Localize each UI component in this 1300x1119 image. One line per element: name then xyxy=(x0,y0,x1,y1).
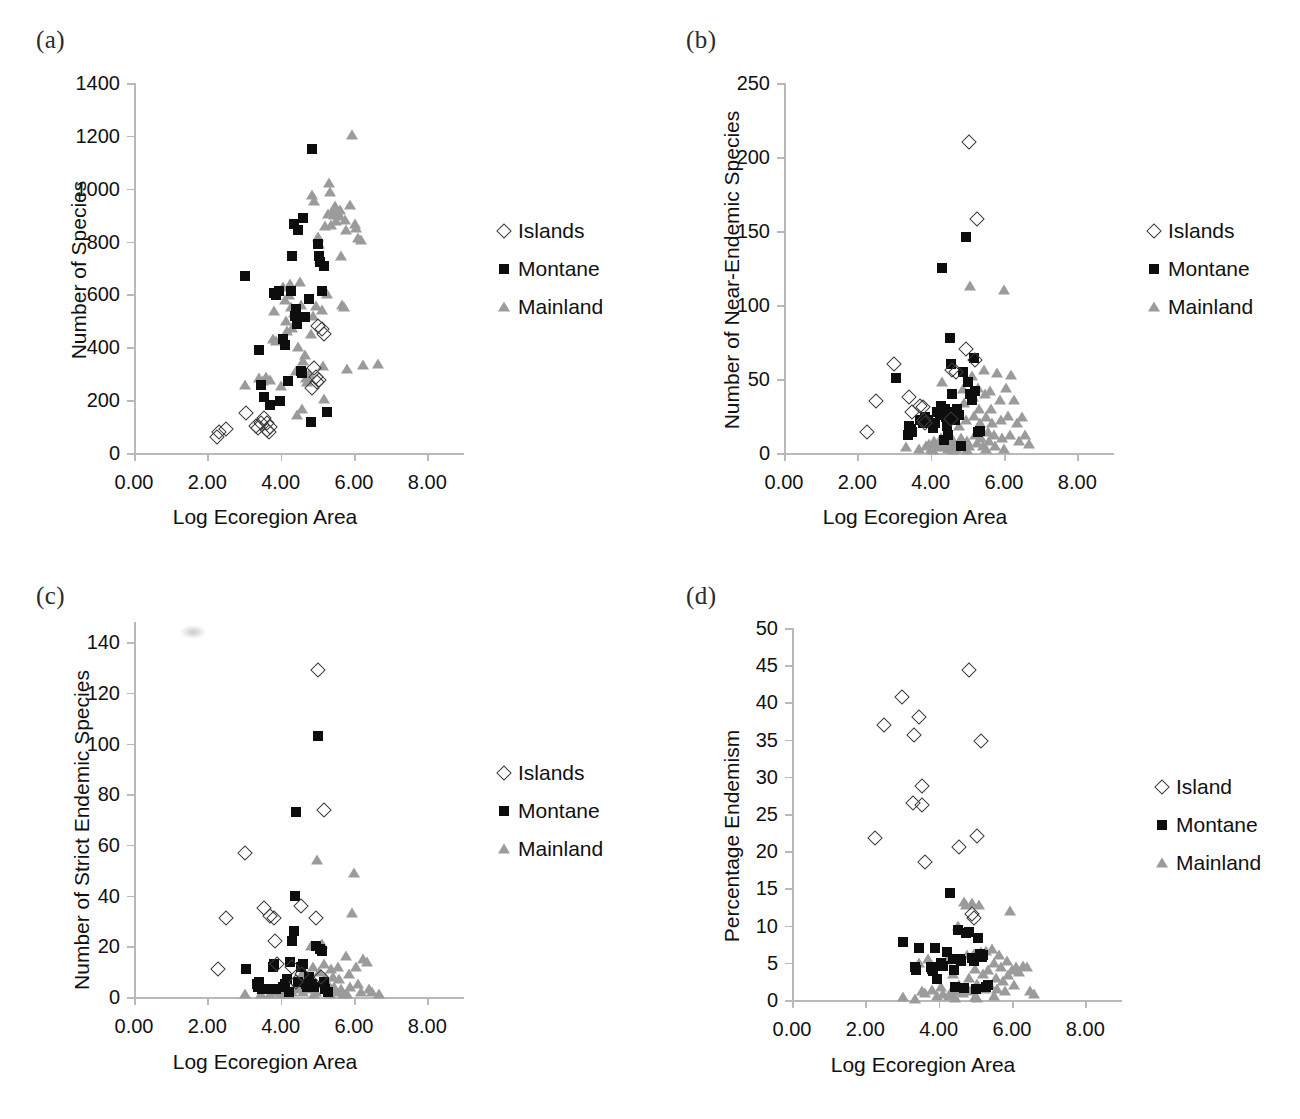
legend-label: Montane xyxy=(518,799,600,823)
y-axis-label-b: Number of Near-Endemic Species xyxy=(720,70,744,470)
y-tick-label: 100 xyxy=(737,294,770,317)
mainland-marker xyxy=(373,989,385,999)
legend-a: IslandsMontaneMainland xyxy=(492,212,603,326)
y-tick-label: 5 xyxy=(767,951,778,974)
x-tick-label: 4.00 xyxy=(919,1018,958,1041)
islands-marker xyxy=(906,727,922,743)
mainland-marker xyxy=(900,442,912,452)
y-tick xyxy=(127,189,134,191)
mainland-marker xyxy=(316,305,328,315)
y-tick xyxy=(127,400,134,402)
legend-item-mainland: Mainland xyxy=(492,830,603,868)
mainland-marker xyxy=(350,222,362,232)
chart-panel-d: (d) Percentage Endemism 0510152025303540… xyxy=(650,556,1300,1116)
y-tick xyxy=(785,888,792,890)
x-tick-label: 8.00 xyxy=(1066,1018,1105,1041)
y-tick-label: 400 xyxy=(87,336,120,359)
y-tick-label: 50 xyxy=(756,617,778,640)
y-axis-line xyxy=(784,83,786,453)
legend-c: IslandsMontaneMainland xyxy=(492,754,603,868)
montane-marker xyxy=(978,950,988,960)
y-tick-label: 20 xyxy=(756,840,778,863)
islands-marker xyxy=(969,211,985,227)
legend-item-islands: Islands xyxy=(1142,212,1253,250)
y-axis-label-d: Percentage Endemism xyxy=(720,666,744,1006)
figure-root: (a) Number of Species 020040060080010001… xyxy=(0,0,1300,1119)
y-tick-label: 10 xyxy=(756,914,778,937)
mainland-marker xyxy=(268,305,280,315)
y-tick xyxy=(127,242,134,244)
mainland-marker xyxy=(1023,439,1035,449)
mainland-marker xyxy=(299,349,311,359)
x-axis-line xyxy=(134,453,464,455)
x-tick xyxy=(427,997,429,1005)
islands-marker xyxy=(869,393,885,409)
islands-marker xyxy=(496,223,512,239)
montane-marker xyxy=(891,373,901,383)
islands-marker xyxy=(308,911,324,927)
legend-label: Montane xyxy=(518,257,600,281)
chart-panel-b: (b) Number of Near-Endemic Species 05010… xyxy=(650,0,1300,560)
montane-marker xyxy=(938,961,948,971)
islands-marker xyxy=(886,356,902,372)
y-tick-label: 250 xyxy=(737,72,770,95)
x-tick-label: 6.00 xyxy=(993,1018,1032,1041)
montane-marker xyxy=(939,435,949,445)
islands-marker-icon xyxy=(492,763,518,783)
x-tick xyxy=(939,1000,941,1008)
montane-marker xyxy=(323,987,333,997)
islands-marker xyxy=(894,689,910,705)
x-tick xyxy=(857,453,859,461)
mainland-marker xyxy=(344,199,356,209)
montane-marker xyxy=(291,807,301,817)
mainland-marker xyxy=(308,195,320,205)
y-tick-label: 200 xyxy=(737,146,770,169)
montane-marker xyxy=(932,974,942,984)
mainland-marker xyxy=(985,403,997,413)
y-tick-label: 30 xyxy=(756,765,778,788)
mainland-marker xyxy=(296,403,308,413)
islands-marker xyxy=(876,717,892,733)
mainland-marker xyxy=(1000,382,1012,392)
y-tick xyxy=(127,347,134,349)
panel-label-b: (b) xyxy=(686,26,716,54)
x-tick xyxy=(207,453,209,461)
y-axis-line xyxy=(134,622,136,997)
montane-marker xyxy=(973,933,983,943)
mainland-marker xyxy=(897,992,909,1002)
mainland-marker-icon xyxy=(492,297,518,317)
mainland-marker xyxy=(998,443,1010,453)
mainland-marker xyxy=(949,992,961,1002)
islands-marker-icon xyxy=(492,221,518,241)
x-tick xyxy=(1004,453,1006,461)
islands-marker xyxy=(973,733,989,749)
mainland-marker xyxy=(340,951,352,961)
islands-marker xyxy=(911,709,927,725)
montane-marker xyxy=(949,965,959,975)
x-tick-label: 2.00 xyxy=(188,471,227,494)
y-tick-label: 40 xyxy=(756,691,778,714)
x-tick xyxy=(1077,453,1079,461)
montane-marker xyxy=(289,926,299,936)
legend-d: IslandMontaneMainland xyxy=(1150,768,1261,882)
y-tick xyxy=(127,896,134,898)
montane-marker xyxy=(304,294,314,304)
x-tick xyxy=(865,1000,867,1008)
x-axis-label-d: Log Ecoregion Area xyxy=(598,1053,1248,1077)
montane-marker xyxy=(499,264,509,274)
y-tick xyxy=(785,740,792,742)
legend-b: IslandsMontaneMainland xyxy=(1142,212,1253,326)
legend-item-montane: Montane xyxy=(1142,250,1253,288)
mainland-marker xyxy=(335,251,347,261)
x-axis-label-a: Log Ecoregion Area xyxy=(0,505,590,529)
mainland-marker xyxy=(372,359,384,369)
legend-label: Island xyxy=(1176,775,1232,799)
montane-marker xyxy=(971,984,981,994)
y-tick-label: 0 xyxy=(767,989,778,1012)
montane-marker xyxy=(499,806,509,816)
y-tick xyxy=(785,963,792,965)
mainland-marker xyxy=(346,908,358,918)
y-tick-label: 25 xyxy=(756,803,778,826)
legend-item-montane: Montane xyxy=(492,250,603,288)
legend-item-mainland: Mainland xyxy=(1150,844,1261,882)
